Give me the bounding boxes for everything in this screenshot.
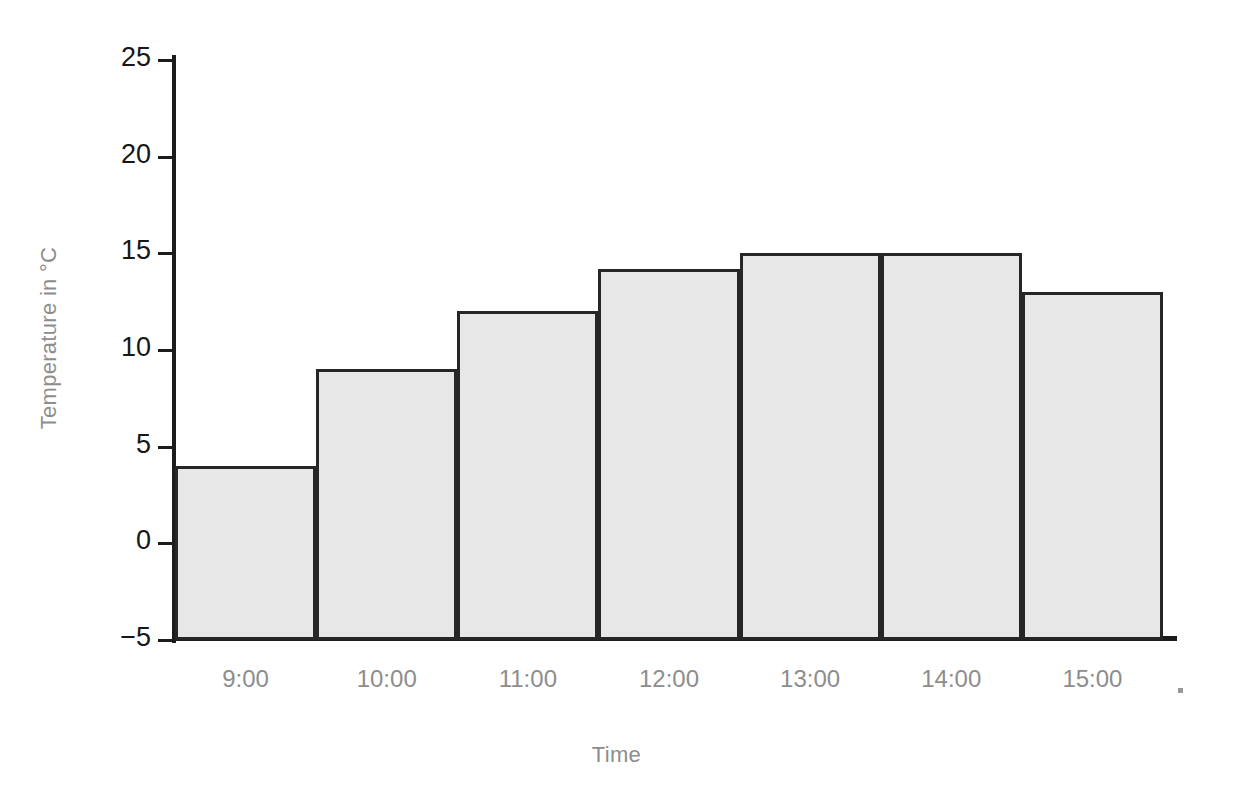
y-axis-tick-mark [158, 639, 175, 642]
x-axis-tick-label: 9:00 [175, 665, 316, 693]
y-axis-tick-mark [158, 59, 175, 62]
y-axis-tick-mark [158, 446, 175, 449]
y-axis-tick-mark [158, 156, 175, 159]
y-axis-tick-label: 15 [121, 235, 151, 266]
plot-area [175, 60, 1163, 640]
x-axis-tick-label: 11:00 [457, 665, 598, 693]
y-axis-tick-label: 20 [121, 139, 151, 170]
bar[interactable] [740, 253, 881, 640]
bar[interactable] [1022, 292, 1163, 640]
page-speck [1178, 688, 1183, 693]
y-axis-tick-label: −5 [120, 622, 151, 653]
x-axis-tick-label: 10:00 [316, 665, 457, 693]
y-axis-title: Temperature in °C [36, 228, 62, 448]
x-axis-title: Time [0, 742, 1233, 768]
bar[interactable] [175, 466, 316, 640]
y-axis-tick-label: 0 [136, 525, 151, 556]
bar[interactable] [598, 269, 739, 640]
y-axis-tick-label: 10 [121, 332, 151, 363]
x-axis-tick-label: 14:00 [881, 665, 1022, 693]
x-axis-tick-label: 12:00 [598, 665, 739, 693]
bar[interactable] [457, 311, 598, 640]
y-axis-tick-label: 25 [121, 42, 151, 73]
bar[interactable] [316, 369, 457, 640]
y-axis-tick-mark [158, 252, 175, 255]
bar[interactable] [881, 253, 1022, 640]
y-axis-tick-mark [158, 542, 175, 545]
y-axis-tick-mark [158, 349, 175, 352]
x-axis-tick-label: 13:00 [740, 665, 881, 693]
y-axis-tick-label: 5 [136, 429, 151, 460]
bar-chart: Temperature in °C 2520151050−5 9:0010:00… [0, 0, 1233, 806]
x-axis-tick-label: 15:00 [1022, 665, 1163, 693]
